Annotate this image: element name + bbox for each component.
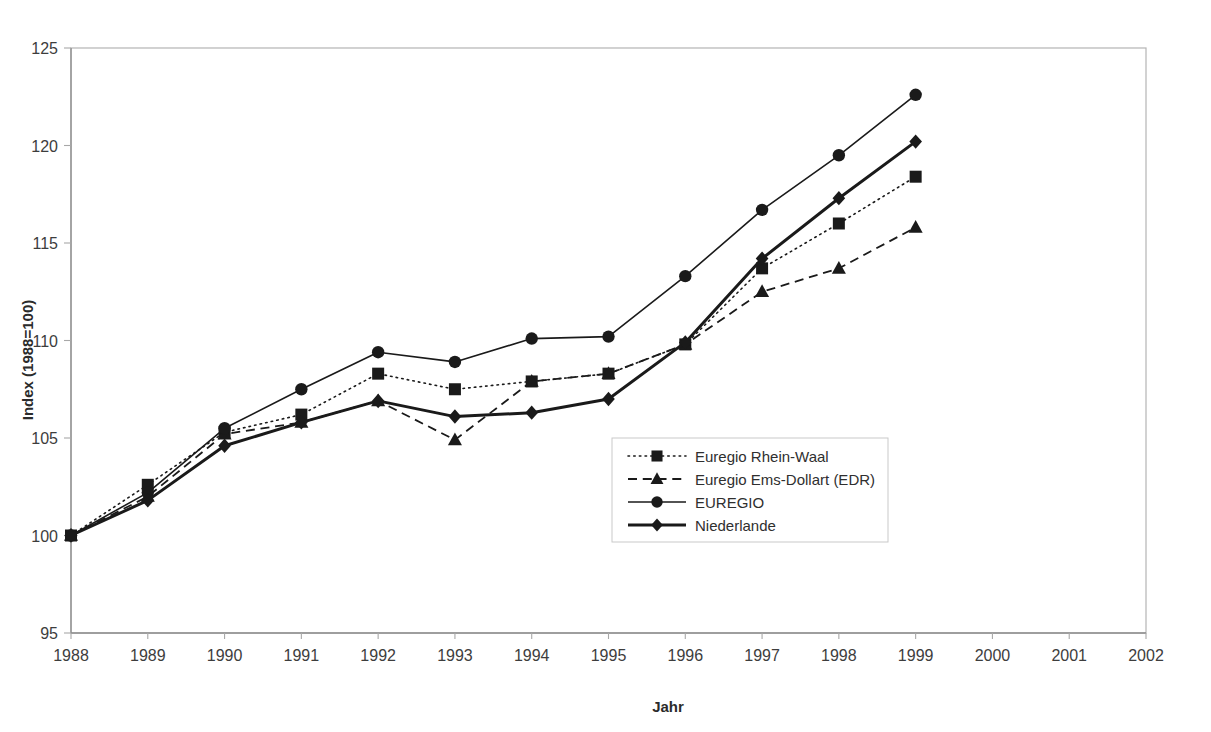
y-tick-label: 105 — [31, 430, 58, 447]
x-tick-label: 1991 — [284, 647, 320, 664]
data-point-marker — [449, 356, 461, 368]
y-axis-ticks: 95100105110115120125 — [31, 40, 71, 642]
x-axis-title: Jahr — [652, 698, 684, 715]
data-point-marker — [449, 409, 462, 423]
data-point-marker — [525, 405, 538, 419]
y-axis-title: Index (1988=100) — [19, 300, 36, 421]
data-point-marker — [602, 330, 614, 342]
y-tick-label: 125 — [31, 40, 58, 57]
data-point-marker — [833, 218, 845, 230]
x-tick-label: 2001 — [1051, 647, 1087, 664]
x-tick-label: 2002 — [1128, 647, 1164, 664]
data-point-marker — [218, 439, 231, 453]
x-axis-ticks: 1988198919901991199219931994199519961997… — [53, 633, 1164, 664]
x-tick-label: 1998 — [821, 647, 857, 664]
data-point-marker — [295, 383, 307, 395]
legend-label: Niederlande — [695, 517, 776, 534]
data-point-marker — [679, 270, 691, 282]
y-tick-label: 100 — [31, 528, 58, 545]
y-tick-label: 120 — [31, 138, 58, 155]
data-point-marker — [910, 171, 922, 183]
data-point-marker — [833, 149, 845, 161]
data-point-marker — [448, 433, 462, 446]
y-tick-label: 110 — [32, 333, 58, 350]
x-tick-label: 1996 — [667, 647, 703, 664]
x-tick-label: 1990 — [207, 647, 243, 664]
data-point-marker — [372, 346, 384, 358]
x-tick-label: 1994 — [514, 647, 550, 664]
x-tick-label: 1999 — [898, 647, 934, 664]
y-tick-label: 95 — [40, 625, 58, 642]
data-point-marker — [909, 220, 923, 233]
data-point-marker — [372, 368, 384, 380]
legend-label: EUREGIO — [695, 494, 764, 511]
legend-label: Euregio Rhein-Waal — [695, 448, 829, 465]
chart-container: 95100105110115120125 1988198919901991199… — [0, 0, 1211, 732]
data-point-marker — [526, 332, 538, 344]
x-tick-label: 1997 — [744, 647, 780, 664]
legend-label: Euregio Ems-Dollart (EDR) — [695, 471, 875, 488]
data-point-marker — [832, 261, 846, 274]
x-tick-label: 1993 — [437, 647, 473, 664]
y-tick-label: 115 — [32, 235, 58, 252]
x-tick-label: 1992 — [360, 647, 396, 664]
chart-legend: Euregio Rhein-WaalEuregio Ems-Dollart (E… — [612, 438, 888, 542]
data-point-marker — [651, 450, 662, 461]
data-point-marker — [651, 496, 662, 507]
data-point-marker — [449, 383, 461, 395]
data-point-marker — [909, 89, 921, 101]
x-tick-label: 2000 — [975, 647, 1011, 664]
data-point-marker — [756, 204, 768, 216]
x-tick-label: 1988 — [53, 647, 89, 664]
data-point-marker — [218, 422, 230, 434]
x-tick-label: 1989 — [130, 647, 166, 664]
x-tick-label: 1995 — [591, 647, 627, 664]
line-chart: 95100105110115120125 1988198919901991199… — [0, 0, 1211, 732]
